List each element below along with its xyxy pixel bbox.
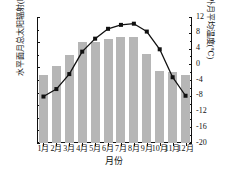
bar-3	[65, 55, 74, 143]
x-axis-title: 月份	[0, 154, 227, 167]
right-axis-tick	[189, 49, 192, 50]
right-axis-minor-tick	[190, 119, 192, 120]
left-axis-tick	[37, 17, 40, 18]
bar-10	[155, 71, 164, 143]
right-axis-minor-tick	[190, 135, 192, 136]
right-axis-tick-label: 0	[196, 60, 218, 68]
right-axis-tick	[189, 17, 192, 18]
x-axis-tick	[69, 143, 70, 146]
right-axis-minor-tick	[190, 88, 192, 89]
right-axis-tick-label: -12	[196, 107, 218, 115]
right-axis-tick-label: -20	[196, 139, 218, 147]
right-axis-tick-label: 8	[196, 28, 218, 36]
bar-4	[78, 42, 87, 143]
right-axis-tick-label: -16	[196, 123, 218, 131]
left-axis-tick	[37, 42, 40, 43]
right-axis-minor-tick	[190, 41, 192, 42]
x-axis-tick	[186, 143, 187, 146]
right-axis-minor-tick	[190, 56, 192, 57]
bar-5	[91, 42, 100, 143]
x-axis-tick	[82, 143, 83, 146]
x-axis-tick	[134, 143, 135, 146]
left-axis-minor-tick	[37, 55, 39, 56]
x-axis-tick	[43, 143, 44, 146]
x-axis-tick	[160, 143, 161, 146]
right-axis-minor-tick	[190, 25, 192, 26]
right-axis-tick-label: 12	[196, 13, 218, 21]
bar-8	[129, 37, 138, 143]
right-axis-minor-tick	[190, 72, 192, 73]
x-axis-tick	[108, 143, 109, 146]
left-axis-title: 水平面月总太阳辐射(kWh/m²)	[12, 0, 26, 87]
x-axis-tick	[173, 143, 174, 146]
bar-7	[116, 37, 125, 143]
left-axis-minor-tick	[37, 30, 39, 31]
bar-12	[181, 75, 190, 143]
bar-2	[52, 66, 61, 143]
bar-1	[39, 75, 48, 143]
chart-figure: 水平面月总太阳辐射(kWh/m²) 室外月平均温度(℃) 月份 04080120…	[0, 0, 227, 171]
bar-6	[104, 39, 113, 143]
right-axis-tick-label: -4	[196, 76, 218, 84]
x-axis-tick	[95, 143, 96, 146]
x-axis-tick	[121, 143, 122, 146]
x-axis-tick	[56, 143, 57, 146]
bar-11	[168, 72, 177, 143]
left-axis-tick	[37, 67, 40, 68]
right-axis-tick	[189, 64, 192, 65]
right-axis-tick-label: 4	[196, 44, 218, 52]
right-axis-tick	[189, 33, 192, 34]
right-axis-tick-label: -8	[196, 91, 218, 99]
right-axis-minor-tick	[190, 104, 192, 105]
x-axis-tick	[147, 143, 148, 146]
bar-9	[142, 54, 151, 143]
